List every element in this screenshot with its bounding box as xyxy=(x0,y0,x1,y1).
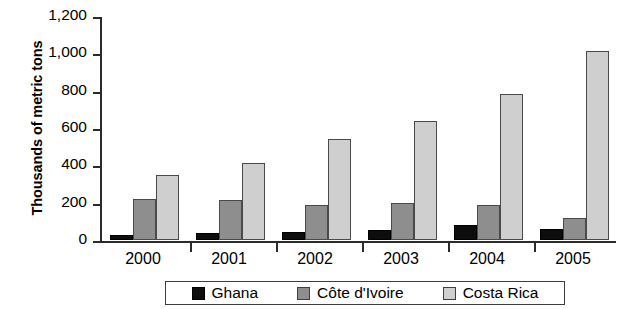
bar xyxy=(133,199,156,240)
y-tick-label: 400 xyxy=(0,155,87,173)
legend-swatch-icon xyxy=(192,287,205,300)
bar xyxy=(328,139,351,240)
x-tick-label: 2003 xyxy=(356,250,446,268)
bar xyxy=(391,203,414,240)
y-tick-label: 200 xyxy=(0,193,87,211)
y-tick-mark xyxy=(93,204,100,206)
chart-legend: GhanaCôte d'IvoireCosta Rica xyxy=(165,281,565,305)
y-tick-label: 0 xyxy=(0,230,87,248)
x-tick-label: 2004 xyxy=(442,250,532,268)
bar xyxy=(219,200,242,240)
legend-label: Costa Rica xyxy=(463,284,539,302)
y-tick-label: 1,200 xyxy=(0,6,87,24)
bar xyxy=(586,51,609,240)
legend-item[interactable]: Ghana xyxy=(192,284,259,302)
x-tick-label: 2005 xyxy=(528,250,618,268)
bar xyxy=(305,205,328,240)
y-tick-mark xyxy=(93,241,100,243)
bar xyxy=(282,232,305,240)
legend-label: Ghana xyxy=(212,284,259,302)
bar xyxy=(156,175,179,240)
y-tick-mark xyxy=(93,166,100,168)
x-tick-label: 2002 xyxy=(270,250,360,268)
bar xyxy=(110,235,133,240)
y-tick-label: 1,000 xyxy=(0,43,87,61)
legend-swatch-icon xyxy=(297,287,310,300)
x-tick-label: 2000 xyxy=(98,250,188,268)
legend-swatch-icon xyxy=(443,287,456,300)
bar xyxy=(454,225,477,240)
bar xyxy=(500,94,523,240)
y-tick-mark xyxy=(93,54,100,56)
x-axis-line xyxy=(100,241,616,243)
bar-chart: Thousands of metric tons 02004006008001,… xyxy=(0,0,624,309)
bar xyxy=(477,205,500,240)
y-tick-mark xyxy=(93,17,100,19)
legend-item[interactable]: Côte d'Ivoire xyxy=(297,284,404,302)
bar xyxy=(563,218,586,240)
bar xyxy=(540,229,563,240)
bar xyxy=(196,233,219,240)
y-tick-label: 600 xyxy=(0,118,87,136)
plot-area: 02004006008001,0001,200 xyxy=(100,17,616,242)
y-axis-line xyxy=(100,17,102,243)
bar xyxy=(368,230,391,240)
x-tick-label: 2001 xyxy=(184,250,274,268)
legend-item[interactable]: Costa Rica xyxy=(443,284,539,302)
y-tick-label: 800 xyxy=(0,81,87,99)
bar xyxy=(414,121,437,240)
y-tick-mark xyxy=(93,129,100,131)
y-tick-mark xyxy=(93,92,100,94)
bar xyxy=(242,163,265,240)
legend-label: Côte d'Ivoire xyxy=(317,284,404,302)
